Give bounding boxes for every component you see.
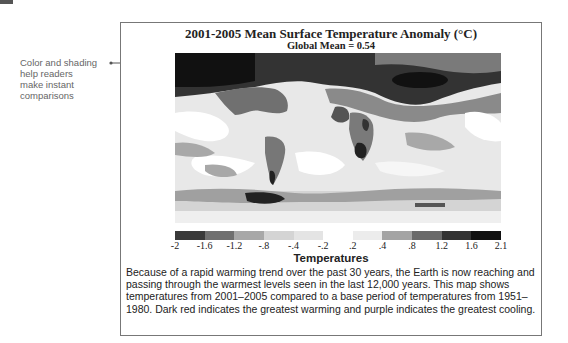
figure-frame: 2001-2005 Mean Surface Temperature Anoma…	[120, 22, 542, 336]
tick-label: -1.6	[197, 240, 213, 251]
tick-label: -.4	[288, 240, 299, 251]
colorbar-bin	[234, 231, 264, 240]
figure-subtitle: Global Mean = 0.54	[121, 40, 541, 51]
colorbar-bin	[353, 231, 383, 240]
figure-caption: Because of a rapid warming trend over th…	[126, 266, 541, 315]
tick-label: 1.2	[435, 240, 448, 251]
colorbar-bin	[294, 231, 324, 240]
tick-label: 2.1	[495, 240, 508, 251]
tick-label: .8	[408, 240, 416, 251]
colorbar-title: Temperatures	[121, 252, 541, 264]
colorbar-bin	[205, 231, 235, 240]
corner-mark	[0, 0, 13, 4]
tick-label: .4	[379, 240, 387, 251]
callout-line: make instant	[20, 79, 110, 90]
callout-line: comparisons	[20, 90, 110, 101]
colorbar-bin	[442, 231, 472, 240]
colorbar-bin	[323, 231, 353, 240]
tick-label: .2	[349, 240, 357, 251]
callout-line: help readers	[20, 68, 110, 79]
tick-label: -1.2	[226, 240, 242, 251]
tick-label: 1.6	[465, 240, 478, 251]
temperature-anomaly-map	[175, 53, 501, 223]
colorbar-bin	[471, 231, 501, 240]
callout-note: Color and shading help readers make inst…	[20, 57, 110, 101]
colorbar-ticks: -2 -1.6 -1.2 -.8 -.4 -.2 .2 .4 .8 1.2 1.…	[165, 240, 511, 252]
callout-line: Color and shading	[20, 57, 110, 68]
colorbar	[175, 231, 501, 240]
tick-label: -.2	[318, 240, 329, 251]
colorbar-bin	[175, 231, 205, 240]
colorbar-bin	[412, 231, 442, 240]
tick-label: -.8	[258, 240, 269, 251]
tick-label: -2	[171, 240, 179, 251]
colorbar-bin	[382, 231, 412, 240]
colorbar-bin	[264, 231, 294, 240]
